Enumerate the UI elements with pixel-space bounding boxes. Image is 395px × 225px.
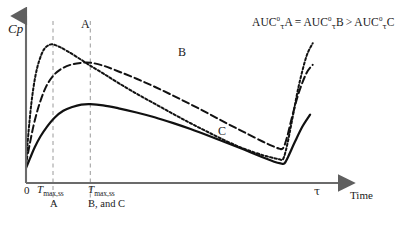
x-tick-zero: 0 [24,185,30,196]
y-axis-label: Cp [8,22,23,35]
tmax-bc-subscript: max,ss [94,189,115,198]
auc-term-a: AUC0τA [252,16,293,31]
auc-c-base: AUC [354,16,379,28]
x-tick-tmax-bc: Tmax,ssB, and C [88,184,125,209]
curve-label-c: C [218,125,226,137]
series-group [26,43,313,168]
curve-label-b: B [178,46,186,58]
auc-a-base: AUC [252,16,277,28]
auc-term-b: AUC0τB [303,16,343,31]
guideline-group [53,21,90,203]
auc-b-tail: B [336,16,344,28]
auc-a-tail: A [284,16,292,28]
tmax-a-subscript: max,ss [43,189,64,198]
auc-operator-2: > [346,17,353,29]
tmax-bc-group: B, and C [88,199,125,210]
series-curve-c [26,104,310,168]
curve-label-a: A [81,18,90,30]
tmax-a-group: A [50,199,64,210]
x-tick-tau: τ [314,186,320,197]
auc-annotation: AUC0τA=AUC0τB>AUC0τC [252,16,395,31]
x-axis-label: Time [350,190,373,201]
auc-operator-1: = [295,17,302,29]
auc-term-c: AUC0τC [354,16,394,31]
auc-c-tail: C [387,16,395,28]
auc-b-base: AUC [303,16,328,28]
x-tick-tmax-a: Tmax,ssA [37,184,64,209]
